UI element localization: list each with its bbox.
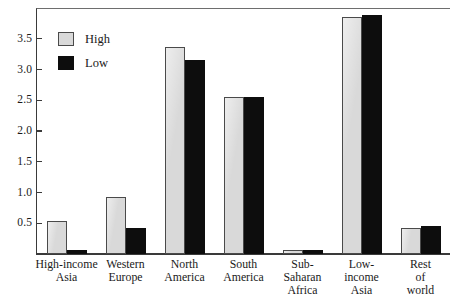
- bar-low[interactable]: [303, 250, 323, 254]
- legend-swatch-low-icon: [58, 56, 74, 70]
- y-axis-tick-label: 3.5: [2, 33, 32, 45]
- legend-item-high: High: [58, 30, 110, 48]
- bar-low[interactable]: [67, 250, 87, 254]
- bar-high[interactable]: [165, 47, 185, 254]
- bar-low[interactable]: [185, 60, 205, 254]
- bar-group: [283, 8, 323, 254]
- bar-high[interactable]: [342, 17, 362, 254]
- bar-chart: 0.51.01.52.02.53.03.5 High-incomeAsiaWes…: [0, 0, 453, 303]
- bar-low[interactable]: [244, 97, 264, 254]
- legend: High Low: [58, 30, 110, 78]
- bar-high[interactable]: [47, 221, 67, 254]
- y-axis-tick-label: 3.0: [2, 64, 32, 76]
- bar-group: [224, 8, 264, 254]
- bar-low[interactable]: [362, 15, 382, 254]
- legend-label-low: Low: [85, 57, 108, 70]
- y-axis-tick-label: 1.5: [2, 156, 32, 168]
- bar-group: [342, 8, 382, 254]
- bar-low[interactable]: [126, 228, 146, 254]
- y-axis-tick-label: 1.0: [2, 187, 32, 199]
- bar-high[interactable]: [283, 250, 303, 254]
- y-axis-tick-label: 2.0: [2, 125, 32, 137]
- legend-swatch-high-icon: [58, 32, 74, 46]
- y-axis-tick-label: 0.5: [2, 217, 32, 229]
- legend-item-low: Low: [58, 54, 110, 72]
- bar-group: [401, 8, 441, 254]
- bar-group: [165, 8, 205, 254]
- bar-high[interactable]: [106, 197, 126, 254]
- legend-label-high: High: [85, 33, 110, 46]
- y-axis-tick-label: 2.5: [2, 94, 32, 106]
- bar-high[interactable]: [401, 228, 421, 254]
- x-axis-category-label: Restofworld: [385, 258, 453, 298]
- bar-low[interactable]: [421, 226, 441, 254]
- x-axis-label-line: world: [385, 284, 453, 297]
- bar-high[interactable]: [224, 97, 244, 254]
- bar-group: [106, 8, 146, 254]
